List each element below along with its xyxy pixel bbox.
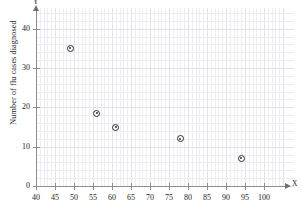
grid-line-vertical [275,8,276,186]
grid-line-vertical [85,8,86,186]
grid-line-vertical [139,8,140,186]
y-axis-tick-mark [33,68,40,69]
grid-line-vertical [230,8,231,186]
grid-line-vertical [44,8,45,186]
grid-line-vertical [169,8,170,186]
grid-line-vertical [253,8,254,186]
grid-line-horizontal [36,99,294,100]
grid-line-horizontal [36,92,294,93]
grid-line-horizontal [36,21,294,22]
grid-line-vertical [158,8,159,186]
grid-line-vertical [226,8,227,186]
grid-line-vertical [66,8,67,186]
grid-line-vertical [47,8,48,186]
y-axis-name-label: Y [33,0,38,6]
grid-line-vertical [256,8,257,186]
grid-line-vertical [184,8,185,186]
grid-line-horizontal [36,131,294,132]
grid-line-vertical [203,8,204,186]
grid-line-vertical [211,8,212,186]
grid-line-vertical [192,8,193,186]
grid-line-vertical [40,8,41,186]
y-axis-tick-mark [33,147,40,148]
y-axis-tick-label: 40 [8,24,30,33]
grid-line-vertical [116,8,117,186]
grid-line-vertical [120,8,121,186]
scatter-plot-figure: Number of flu cases diagnosed Y X 010203… [0,0,302,210]
y-axis-tick-label: 10 [8,142,30,151]
grid-line-vertical [177,8,178,186]
grid-line-horizontal [36,29,294,30]
grid-line-vertical [207,8,208,186]
grid-line-horizontal [36,155,294,156]
grid-line-vertical [218,8,219,186]
x-axis-tick-mark [207,183,208,190]
grid-line-vertical [245,8,246,186]
y-axis-line [36,10,37,187]
x-axis-tick-mark [150,183,151,190]
x-axis-arrow-icon [285,183,291,189]
y-axis-tick-label: 20 [8,102,30,111]
x-axis-tick-mark [55,183,56,190]
grid-line-vertical [104,8,105,186]
x-axis-tick-mark [93,183,94,190]
grid-line-vertical [196,8,197,186]
grid-line-vertical [283,8,284,186]
grid-line-horizontal [36,115,294,116]
grid-line-vertical [264,8,265,186]
data-point [112,124,119,131]
grid-line-vertical [78,8,79,186]
data-point [93,110,100,117]
grid-line-vertical [51,8,52,186]
x-axis-tick-mark [36,183,37,190]
x-axis-tick-mark [226,183,227,190]
grid-line-vertical [215,8,216,186]
grid-line-vertical [82,8,83,186]
x-axis-tick-mark [131,183,132,190]
grid-line-vertical [108,8,109,186]
x-axis-tick-mark [264,183,265,190]
grid-line-vertical [93,8,94,186]
grid-line-vertical [112,8,113,186]
grid-line-vertical [260,8,261,186]
grid-line-vertical [127,8,128,186]
grid-line-horizontal [36,13,294,14]
x-axis-tick-mark [74,183,75,190]
grid-line-horizontal [36,68,294,69]
grid-line-vertical [131,8,132,186]
data-point [177,135,184,142]
grid-line-vertical [150,8,151,186]
grid-line-vertical [146,8,147,186]
grid-line-vertical [279,8,280,186]
grid-line-vertical [154,8,155,186]
grid-line-horizontal [36,162,294,163]
grid-line-horizontal [36,84,294,85]
grid-line-vertical [272,8,273,186]
grid-line-horizontal [36,44,294,45]
grid-lines [36,8,294,186]
grid-line-vertical [74,8,75,186]
grid-line-horizontal [36,52,294,53]
grid-line-vertical [123,8,124,186]
y-axis-title: Number of flu cases diagnosed [9,0,18,148]
grid-line-horizontal [36,76,294,77]
grid-line-vertical [89,8,90,186]
data-point [238,155,245,162]
grid-line-vertical [55,8,56,186]
plot-area [36,8,294,186]
y-axis-tick-label: 0 [8,181,30,190]
grid-line-vertical [70,8,71,186]
grid-line-horizontal [36,147,294,148]
x-axis-tick-mark [245,183,246,190]
grid-line-vertical [63,8,64,186]
grid-line-horizontal [36,170,294,171]
grid-line-vertical [59,8,60,186]
x-axis-tick-mark [169,183,170,190]
x-axis-tick-mark [188,183,189,190]
grid-line-vertical [234,8,235,186]
grid-line-vertical [249,8,250,186]
grid-line-vertical [268,8,269,186]
grid-line-vertical [161,8,162,186]
grid-line-vertical [222,8,223,186]
grid-line-horizontal [36,37,294,38]
